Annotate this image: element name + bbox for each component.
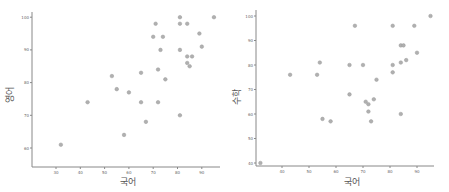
data-point [161, 35, 165, 39]
data-point [139, 100, 143, 104]
data-point [391, 24, 395, 28]
data-point [404, 58, 408, 62]
x-axis-label: 국어 [344, 177, 360, 187]
data-point [139, 71, 143, 75]
data-point [367, 110, 371, 114]
data-point [375, 78, 379, 82]
data-point [154, 22, 158, 26]
data-point [348, 93, 352, 97]
data-point [399, 112, 403, 116]
y-tick-label: 40 [248, 161, 254, 166]
x-tick-label: 30 [53, 170, 59, 175]
data-point [110, 74, 114, 78]
chart-canvas: 3040506070809060708090100 국어 영어 40506070… [0, 0, 449, 192]
x-tick-label: 50 [306, 169, 312, 174]
y-tick-label: 90 [24, 47, 30, 52]
x-tick-label: 80 [387, 169, 393, 174]
data-point [361, 63, 365, 67]
x-tick-label: 70 [151, 170, 157, 175]
scatter-plot-math: 405060708090405060708090100 국어 수학 [232, 10, 434, 187]
x-tick-label: 60 [126, 170, 132, 175]
data-point [185, 55, 189, 59]
data-point [178, 114, 182, 118]
y-axis-label: 영어 [5, 87, 15, 103]
data-point [429, 14, 433, 18]
points-group [259, 14, 433, 165]
data-point [144, 120, 148, 124]
data-point [86, 100, 90, 104]
data-point [188, 64, 192, 68]
x-tick-label: 90 [199, 170, 205, 175]
y-tick-label: 80 [24, 80, 30, 85]
data-point [212, 15, 216, 19]
data-point [122, 133, 126, 137]
x-axis-label: 국어 [120, 177, 136, 187]
data-point [127, 91, 131, 95]
data-point [159, 48, 163, 52]
data-point [353, 24, 357, 28]
x-tick-label: 80 [175, 170, 181, 175]
data-point [372, 98, 376, 102]
tick-group: 3040506070809060708090100 [21, 15, 204, 175]
data-point [288, 73, 292, 77]
y-tick-label: 70 [24, 113, 30, 118]
y-tick-label: 90 [248, 38, 254, 43]
data-point [200, 45, 204, 49]
data-point [315, 73, 319, 77]
data-point [156, 68, 160, 72]
x-tick-label: 60 [333, 169, 339, 174]
data-point [156, 100, 160, 104]
data-point [402, 44, 406, 48]
data-point [178, 22, 182, 26]
data-point [391, 71, 395, 75]
data-point [185, 22, 189, 26]
y-tick-label: 60 [24, 146, 30, 151]
data-point [190, 55, 194, 59]
data-point [318, 61, 322, 65]
data-point [59, 143, 63, 147]
data-point [178, 48, 182, 52]
data-point [369, 120, 373, 124]
y-tick-label: 80 [248, 63, 254, 68]
data-point [329, 120, 333, 124]
x-tick-label: 70 [360, 169, 366, 174]
data-point [415, 51, 419, 55]
data-point [399, 61, 403, 65]
points-group [59, 15, 216, 146]
data-point [348, 63, 352, 67]
y-tick-label: 60 [248, 112, 254, 117]
data-point [391, 63, 395, 67]
data-point [259, 161, 263, 165]
y-tick-label: 100 [245, 14, 253, 19]
x-tick-label: 40 [78, 170, 84, 175]
x-tick-label: 40 [279, 169, 285, 174]
data-point [164, 78, 168, 82]
data-point [413, 24, 417, 28]
data-point [367, 102, 371, 106]
data-point [151, 35, 155, 39]
data-point [198, 32, 202, 36]
scatter-plot-english: 3040506070809060708090100 국어 영어 [5, 12, 220, 187]
data-point [115, 87, 119, 91]
x-tick-label: 90 [414, 169, 420, 174]
tick-group: 405060708090405060708090100 [245, 14, 420, 175]
y-axis-label: 수학 [232, 89, 242, 105]
y-tick-label: 70 [248, 87, 254, 92]
data-point [185, 61, 189, 65]
x-tick-label: 50 [102, 170, 108, 175]
y-tick-label: 50 [248, 136, 254, 141]
data-point [321, 117, 325, 121]
data-point [178, 15, 182, 19]
y-tick-label: 100 [21, 15, 29, 20]
